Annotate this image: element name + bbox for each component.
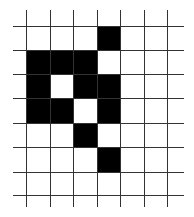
filled-cell <box>26 50 51 75</box>
filled-cell <box>26 98 51 124</box>
filled-cell <box>97 26 121 51</box>
filled-cell <box>73 74 98 99</box>
grid-horizontal-line <box>13 123 184 124</box>
grid-vertical-line <box>73 10 74 207</box>
filled-cell <box>50 98 74 124</box>
filled-cell <box>97 74 121 99</box>
filled-cell <box>73 50 98 75</box>
filled-cell <box>97 147 121 173</box>
grid-horizontal-line <box>13 195 184 196</box>
grid-vertical-line <box>97 10 98 207</box>
filled-cell <box>26 74 51 99</box>
grid-vertical-line <box>120 10 121 207</box>
filled-cell <box>73 123 98 148</box>
grid-vertical-line <box>144 10 145 207</box>
grid-vertical-line <box>26 10 27 207</box>
grid-horizontal-line <box>13 172 184 173</box>
filled-cell <box>50 50 74 75</box>
grid-horizontal-line <box>13 26 184 27</box>
grid-horizontal-line <box>13 74 184 75</box>
grid-horizontal-line <box>13 98 184 99</box>
grid-horizontal-line <box>13 147 184 148</box>
grid-horizontal-line <box>13 50 184 51</box>
grid-vertical-line <box>167 10 168 207</box>
grid-vertical-line <box>50 10 51 207</box>
filled-cell <box>97 98 121 124</box>
